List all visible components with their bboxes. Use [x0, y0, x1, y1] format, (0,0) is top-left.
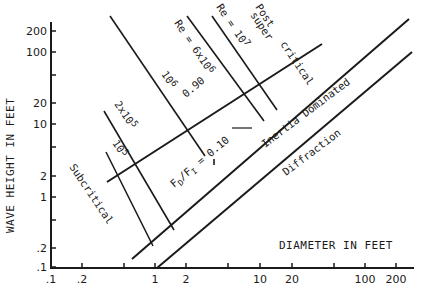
label-re-1e5: 105 [110, 137, 131, 159]
y-tick-label: 10 [33, 118, 47, 131]
label-critical: critical [278, 38, 316, 87]
label-diffraction: Diffraction [280, 126, 343, 177]
x-ticks: .1.2121020100200 [46, 263, 407, 286]
axes [50, 22, 414, 268]
label-fd-fi-ratio: FD/FI = 0.10 [168, 133, 233, 191]
y-tick-label: 20 [33, 97, 47, 110]
label-re-1e7: Re = 107 [214, 1, 253, 49]
figure-caption [30, 284, 410, 298]
y-tick-label: 2 [40, 170, 47, 183]
x-axis-title: DIAMETER IN FEET [279, 239, 393, 252]
re-1e5-line [106, 152, 153, 246]
label-re-2e5: 2x105 [112, 98, 140, 131]
wave-force-regime-chart: 200100201021.2.1 .1.2121020100200 WAVE H… [0, 0, 421, 298]
y-tick-label: 200 [26, 25, 47, 38]
label-subcritical: Subcritical [67, 161, 116, 225]
y-tick-label: 100 [26, 46, 47, 59]
label-re-1e6: 106 [159, 68, 180, 90]
label-re-6e6: Re = 6x106 [172, 17, 218, 76]
y-axis-title: WAVE HEIGHT IN FEET [4, 98, 17, 233]
label-ratio-090: 0.90 [180, 74, 207, 99]
y-tick-label: 1 [40, 191, 47, 204]
boundary-lines [107, 19, 412, 268]
y-tick-label: .2 [37, 242, 48, 255]
